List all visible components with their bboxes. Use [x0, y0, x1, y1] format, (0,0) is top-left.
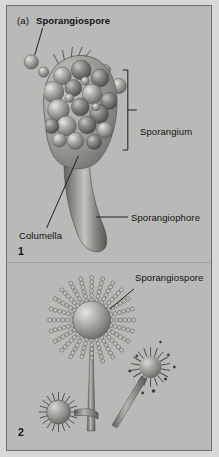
conidiophore-stalk-main	[87, 345, 95, 431]
free-sporangiospore	[111, 78, 126, 93]
figure-root: (a) Sporangiospore Sporangium Sporangiop…	[0, 0, 219, 457]
leader-line-sporangiospore	[35, 28, 43, 55]
label-sporangium: Sporangium	[140, 126, 192, 137]
radiating-spore-head-small	[39, 392, 98, 432]
panel-sporangium-detail: (a) Sporangiospore Sporangium Sporangiop…	[7, 6, 211, 263]
vesicle-small	[47, 400, 71, 424]
bracket-sporangium	[123, 70, 137, 150]
columella-dome	[58, 132, 98, 164]
sporangiospore-mass	[43, 60, 117, 150]
free-sporangiospore	[38, 67, 48, 77]
panel-number-1: 1	[18, 246, 24, 257]
sac-rupture-spikes	[54, 47, 92, 64]
panel-number-2: 2	[18, 427, 24, 438]
spore-rays-medium	[131, 347, 170, 387]
panel-conidial-heads: Sporangiospore 2	[7, 263, 211, 450]
label-sporangiophore: Sporangiophore	[131, 212, 200, 223]
radiating-spore-head-medium	[112, 341, 176, 428]
spore-rays-small	[39, 392, 79, 432]
sporangium-sac	[44, 55, 117, 168]
vesicle-medium	[140, 356, 162, 378]
released-spores	[128, 341, 175, 395]
label-columella: Columella	[19, 230, 62, 241]
leader-line-columella	[47, 156, 79, 228]
panel-2-illustration	[7, 263, 211, 450]
leader-line-sporangiospore-2	[110, 289, 134, 309]
panel-part-letter: (a)	[17, 15, 29, 26]
free-sporangiospore	[99, 64, 110, 75]
figure-plate: (a) Sporangiospore Sporangium Sporangiop…	[6, 5, 212, 451]
conidiophore-stalk-right	[112, 376, 147, 428]
vesicle-large	[73, 301, 111, 339]
conidiophore-stalk-left	[74, 409, 98, 419]
label-sporangiospore: Sporangiospore	[36, 15, 110, 26]
radiating-spore-head-large	[48, 276, 136, 364]
label-sporangiospore-panel2: Sporangiospore	[135, 272, 203, 283]
free-sporangiospore	[24, 55, 38, 69]
sporangiophore-stalk	[64, 152, 107, 252]
